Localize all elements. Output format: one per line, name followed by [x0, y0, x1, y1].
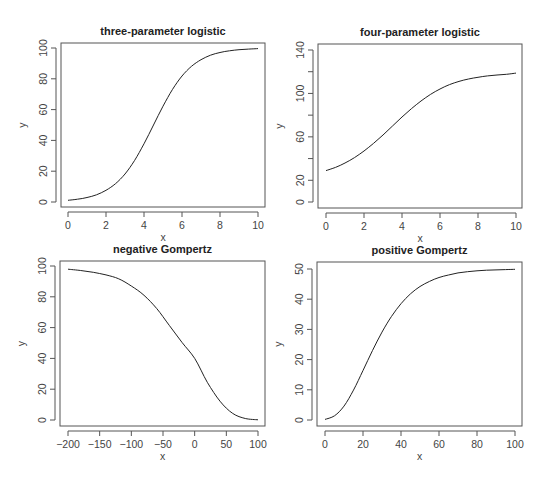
- chart-title: negative Gompertz: [113, 243, 213, 255]
- data-line: [68, 49, 258, 201]
- y-tick-label: 100: [37, 39, 49, 57]
- chart-title: four-parameter logistic: [360, 26, 480, 38]
- y-axis: 02060100140y: [273, 41, 313, 205]
- x-tick-label: −150: [88, 438, 112, 450]
- x-tick-label: 80: [471, 438, 483, 450]
- y-tick-label: 40: [36, 352, 48, 364]
- panel-negative-gompertz: negative Gompertz−200−150−100−50050100x0…: [15, 243, 267, 462]
- x-tick-label: 4: [399, 220, 405, 232]
- figure: three-parameter logistic0246810x02040608…: [0, 0, 547, 485]
- x-tick-label: 10: [252, 219, 264, 231]
- x-tick-label: 8: [217, 219, 223, 231]
- y-tick-label: 0: [294, 199, 306, 205]
- x-tick-label: 2: [103, 219, 109, 231]
- x-tick-label: 100: [249, 438, 267, 450]
- x-axis-label: x: [417, 450, 423, 462]
- x-axis: 020406080100x: [322, 431, 524, 462]
- x-axis-label: x: [160, 231, 166, 243]
- y-tick-label: 140: [294, 41, 306, 59]
- panel-positive-gompertz: positive Gompertz020406080100x0102030405…: [272, 244, 524, 462]
- x-tick-label: 20: [357, 438, 369, 450]
- x-tick-label: 50: [220, 438, 232, 450]
- x-axis: 0246810x: [323, 213, 522, 244]
- y-axis: 020406080100y: [15, 257, 55, 423]
- y-tick-label: 20: [37, 165, 49, 177]
- y-axis: 020406080100y: [16, 39, 56, 205]
- plot-frame: [61, 43, 265, 207]
- y-tick-label: 0: [37, 199, 49, 205]
- data-line: [326, 73, 516, 171]
- x-tick-label: 6: [437, 220, 443, 232]
- y-tick-label: 20: [294, 174, 306, 186]
- data-line: [325, 269, 515, 419]
- x-axis: −200−150−100−50050100x: [56, 431, 267, 462]
- plot-frame: [60, 261, 265, 426]
- x-tick-label: 0: [192, 438, 198, 450]
- y-tick-label: 0: [293, 417, 305, 423]
- x-tick-label: 100: [506, 438, 524, 450]
- x-tick-label: 4: [141, 219, 147, 231]
- y-tick-label: 10: [293, 384, 305, 396]
- y-tick-label: 100: [294, 85, 306, 103]
- x-axis-label: x: [160, 450, 166, 462]
- x-tick-label: −200: [56, 438, 80, 450]
- x-tick-label: −100: [120, 438, 144, 450]
- panel-three-parameter-logistic: three-parameter logistic0246810x02040608…: [16, 25, 265, 243]
- x-tick-label: 40: [395, 438, 407, 450]
- panel-four-parameter-logistic: four-parameter logistic0246810x020601001…: [273, 26, 522, 244]
- x-axis: 0246810x: [65, 212, 264, 243]
- x-tick-label: 6: [179, 219, 185, 231]
- x-tick-label: −50: [154, 438, 172, 450]
- y-axis: 01020304050y: [272, 263, 312, 423]
- y-tick-label: 20: [293, 354, 305, 366]
- y-axis-label: y: [273, 123, 285, 129]
- x-tick-label: 8: [475, 220, 481, 232]
- y-axis-label: y: [15, 340, 27, 346]
- y-tick-label: 60: [37, 104, 49, 116]
- x-tick-label: 0: [323, 220, 329, 232]
- y-tick-label: 60: [294, 131, 306, 143]
- data-line: [68, 269, 258, 420]
- x-tick-label: 0: [65, 219, 71, 231]
- chart-title: positive Gompertz: [372, 244, 468, 256]
- plot-frame: [318, 44, 522, 208]
- y-tick-label: 60: [36, 322, 48, 334]
- y-axis-label: y: [272, 341, 284, 347]
- x-tick-label: 60: [433, 438, 445, 450]
- x-axis-label: x: [417, 232, 423, 244]
- y-tick-label: 40: [37, 134, 49, 146]
- y-tick-label: 80: [37, 73, 49, 85]
- x-tick-label: 2: [361, 220, 367, 232]
- y-tick-label: 30: [293, 323, 305, 335]
- y-tick-label: 0: [36, 417, 48, 423]
- y-tick-label: 20: [36, 383, 48, 395]
- y-tick-label: 40: [293, 293, 305, 305]
- chart-title: three-parameter logistic: [100, 25, 225, 37]
- x-tick-label: 10: [510, 220, 522, 232]
- y-tick-label: 80: [36, 291, 48, 303]
- y-tick-label: 50: [293, 263, 305, 275]
- y-tick-label: 100: [36, 257, 48, 275]
- x-tick-label: 0: [322, 438, 328, 450]
- y-axis-label: y: [16, 122, 28, 128]
